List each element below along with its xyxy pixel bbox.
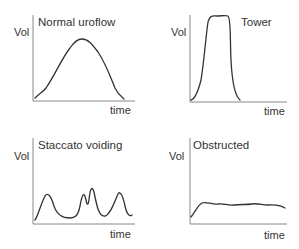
ylabel-staccato: Vol [14, 151, 29, 162]
axes-tower [190, 15, 287, 102]
curve-tower [191, 16, 240, 100]
panel-title-normal: Normal uroflow [38, 17, 115, 29]
uroflow-diagram [0, 0, 299, 249]
ylabel-normal: Vol [14, 27, 29, 38]
curve-obstructed [191, 202, 285, 217]
xlabel-obstructed: time [264, 230, 285, 241]
panel-title-tower: Tower [241, 17, 272, 29]
ylabel-tower: Vol [171, 27, 186, 38]
panel-title-obstructed: Obstructed [193, 140, 249, 152]
xlabel-tower: time [264, 106, 285, 117]
curve-normal [35, 39, 124, 99]
curve-staccato [35, 189, 132, 220]
xlabel-staccato: time [110, 229, 131, 240]
ylabel-obstructed: Vol [169, 151, 184, 162]
xlabel-normal: time [110, 105, 131, 116]
panel-title-staccato: Staccato voiding [38, 140, 122, 152]
